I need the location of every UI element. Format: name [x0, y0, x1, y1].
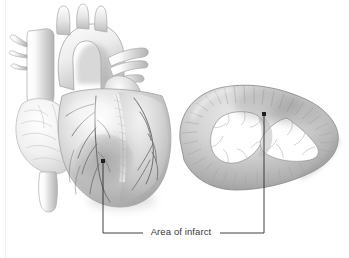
ventricle-highlight — [68, 98, 116, 126]
brachiocephalic-trunk — [57, 6, 70, 35]
transverse-cross-section — [180, 85, 338, 190]
inferior-vena-cava — [39, 172, 58, 212]
aortic-arch-inner-shadow — [76, 44, 110, 84]
superior-vena-cava — [27, 29, 54, 110]
azygos-branch-lower — [11, 64, 27, 70]
left-subclavian-artery — [95, 6, 107, 32]
area-of-infarct-label: Area of infarct — [146, 226, 216, 237]
left-leader-dot — [101, 159, 105, 163]
right-leader-dot — [262, 112, 266, 116]
heart-illustration-canvas — [0, 0, 349, 258]
azygos-branch-mid — [9, 51, 27, 58]
heart-infarct-figure: Area of infarct — [0, 0, 349, 258]
left-common-carotid-artery — [77, 4, 89, 29]
anterior-view-heart — [9, 4, 171, 212]
apex-shadow — [88, 190, 156, 210]
azygos-branch-upper — [10, 35, 27, 47]
